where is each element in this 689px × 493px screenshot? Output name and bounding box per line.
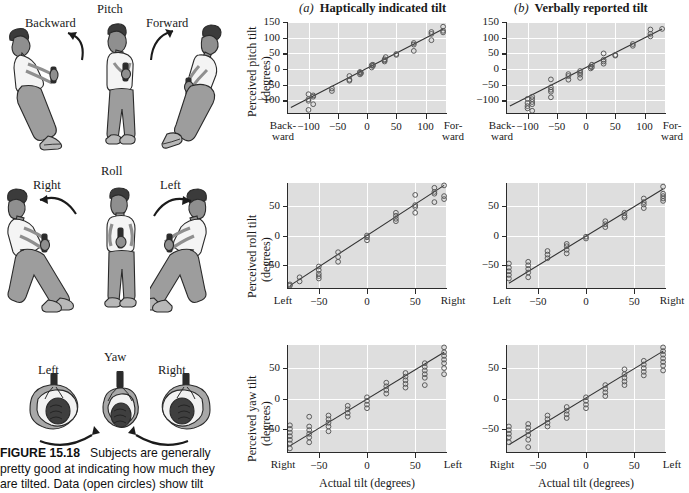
regression-line bbox=[509, 351, 663, 445]
data-point bbox=[641, 373, 646, 378]
figure-caption-label: FIGURE 15.18 bbox=[0, 446, 80, 460]
x-axis-title: Actual tilt (degrees) bbox=[487, 476, 685, 491]
data-point bbox=[526, 437, 531, 442]
x-tick-label: 0 bbox=[566, 459, 606, 471]
data-point bbox=[622, 367, 627, 372]
data-point bbox=[622, 383, 627, 388]
x-axis-end-label: Left bbox=[651, 459, 689, 470]
y-tick-label: 50 bbox=[465, 361, 499, 373]
x-axis-start-label: Right bbox=[481, 459, 523, 470]
x-tick bbox=[634, 453, 635, 458]
data-layer-yaw-verbal bbox=[507, 345, 665, 452]
figure-caption: FIGURE 15.18 Subjects are generally pret… bbox=[0, 446, 228, 493]
y-tick bbox=[502, 399, 507, 400]
x-tick-label: −50 bbox=[518, 459, 558, 471]
data-point bbox=[661, 368, 666, 373]
y-tick bbox=[502, 429, 507, 430]
y-tick-label: −50 bbox=[465, 422, 499, 434]
data-point bbox=[584, 406, 589, 411]
x-tick-label: 50 bbox=[614, 459, 654, 471]
x-tick bbox=[586, 453, 587, 458]
x-tick bbox=[538, 453, 539, 458]
y-tick bbox=[502, 368, 507, 369]
y-tick-label: 0 bbox=[465, 392, 499, 404]
data-point bbox=[526, 445, 531, 450]
